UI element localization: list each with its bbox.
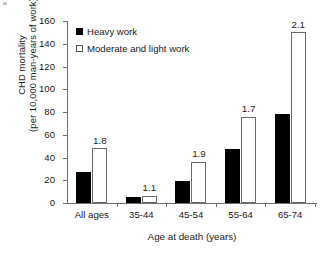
legend-item-moderate-light-work: Moderate and light work bbox=[76, 41, 189, 55]
chart-legend: Heavy work Moderate and light work bbox=[76, 24, 189, 58]
bar-heavy-work bbox=[76, 172, 91, 203]
bar-value-label: 1.9 bbox=[182, 149, 216, 159]
bar-value-label: 1.7 bbox=[232, 104, 266, 114]
x-axis-category-label: 65-74 bbox=[265, 210, 315, 221]
legend-label-moderate-light-work: Moderate and light work bbox=[87, 43, 189, 54]
bar-group: 1.7 bbox=[216, 21, 266, 203]
x-axis-category-label: 55-64 bbox=[216, 210, 266, 221]
y-axis-tick-label: 140 bbox=[15, 39, 55, 49]
x-axis-category-label: 45-54 bbox=[166, 210, 216, 221]
legend-swatch-filled-square-icon bbox=[76, 28, 83, 35]
bar-moderate-light-work bbox=[291, 32, 306, 203]
bar-value-label: 2.1 bbox=[281, 20, 315, 30]
y-axis-tick-label: 60 bbox=[15, 130, 55, 140]
x-axis-line bbox=[67, 203, 317, 204]
bar-moderate-light-work bbox=[92, 148, 107, 203]
bar-moderate-light-work bbox=[191, 162, 206, 203]
legend-label-heavy-work: Heavy work bbox=[87, 26, 137, 37]
y-axis-tick-label: 0 bbox=[15, 198, 55, 208]
x-axis-tick bbox=[265, 203, 266, 207]
x-axis-category-label: 35-44 bbox=[117, 210, 167, 221]
y-axis-tick-label: 40 bbox=[15, 153, 55, 163]
x-axis-tick bbox=[166, 203, 167, 207]
bar-value-label: 1.8 bbox=[83, 136, 117, 146]
bar-heavy-work bbox=[175, 181, 190, 203]
bar-heavy-work bbox=[275, 114, 290, 203]
bar-value-label: 1.1 bbox=[132, 183, 166, 193]
chd-mortality-bar-chart: CHD mortality (per 10,000 man-years of w… bbox=[0, 0, 330, 260]
x-axis-tick bbox=[117, 203, 118, 207]
y-axis-tick-label: 160 bbox=[15, 16, 55, 26]
bar-heavy-work bbox=[126, 197, 141, 203]
bar-moderate-light-work bbox=[241, 117, 256, 203]
x-axis-tick bbox=[216, 203, 217, 207]
y-axis-tick-labels: 160140120100806040200 bbox=[0, 0, 62, 260]
bar-heavy-work bbox=[225, 149, 240, 203]
x-axis-title: Age at death (years) bbox=[67, 231, 317, 242]
x-axis-tick bbox=[315, 203, 316, 207]
y-axis-tick-label: 20 bbox=[15, 175, 55, 185]
y-axis-tick-label: 100 bbox=[15, 84, 55, 94]
bar-group: 2.1 bbox=[265, 21, 315, 203]
bar-moderate-light-work bbox=[142, 196, 157, 203]
legend-item-heavy-work: Heavy work bbox=[76, 24, 189, 38]
y-axis-tick bbox=[63, 203, 67, 204]
x-axis-category-label: All ages bbox=[67, 210, 117, 221]
y-axis-tick-label: 120 bbox=[15, 62, 55, 72]
y-axis-tick-label: 80 bbox=[15, 107, 55, 117]
legend-swatch-open-square-icon bbox=[76, 45, 83, 52]
